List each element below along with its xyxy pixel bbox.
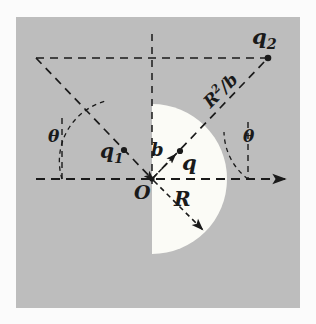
label-q1: q1 bbox=[100, 141, 123, 166]
label-q: q bbox=[182, 152, 197, 173]
point-q2-marker bbox=[265, 55, 272, 62]
label-radius: R bbox=[174, 189, 191, 209]
label-q2: q2 bbox=[252, 26, 277, 51]
figure-canvas: q2 q1 q b O R R2/b θ θ bbox=[0, 0, 316, 324]
label-theta-right: θ bbox=[243, 128, 254, 145]
label-b: b bbox=[151, 141, 164, 159]
label-theta-left: θ bbox=[48, 128, 59, 145]
label-origin: O bbox=[134, 183, 151, 202]
